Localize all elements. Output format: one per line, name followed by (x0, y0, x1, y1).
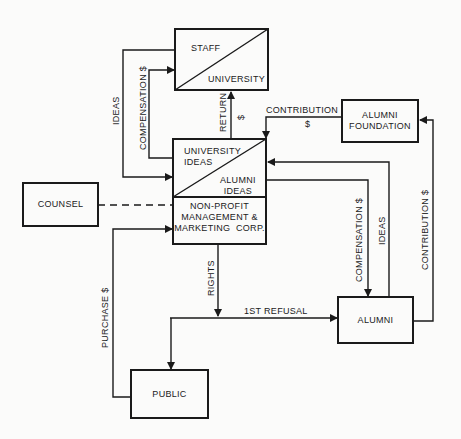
purchase-label: PURCHASE $ (100, 287, 110, 348)
university-ideas-line1: UNIVERSITY (184, 146, 241, 157)
public-label: PUBLIC (152, 389, 186, 400)
first-refusal-label: 1ST REFUSAL (244, 306, 308, 317)
return-label: RETURN (218, 93, 228, 132)
university-ideas-line2: IDEAS (184, 157, 241, 168)
edge-compensation-left (149, 70, 174, 158)
contribution-top-dollar-label: $ (305, 119, 310, 130)
corp-line2: MANAGEMENT & (181, 212, 257, 223)
university-label: UNIVERSITY (208, 74, 265, 85)
edge-ideas-right (268, 162, 389, 297)
ideas-left-label: IDEAS (111, 96, 121, 125)
alumni-ideas-label: ALUMNI IDEAS (220, 175, 256, 197)
corp-line3: MARKETING CORP. (174, 223, 265, 234)
alumni-label: ALUMNI (358, 315, 394, 326)
rights-label: RIGHTS (206, 260, 216, 296)
alumni-foundation-box: ALUMNI FOUNDATION (341, 99, 419, 143)
public-box: PUBLIC (130, 369, 209, 419)
contribution-right-label: CONTRIBUTION $ (420, 190, 430, 270)
corp-label: NON-PROFIT MANAGEMENT & MARKETING CORP. (173, 201, 266, 234)
compensation-left-label: COMPENSATION $ (138, 66, 148, 150)
return-dollar-label: $ (236, 115, 246, 120)
counsel-label: COUNSEL (38, 199, 84, 210)
foundation-line2: FOUNDATION (349, 121, 411, 132)
ideas-right-label: IDEAS (377, 216, 387, 245)
foundation-line1: ALUMNI (362, 110, 398, 121)
alumni-box: ALUMNI (337, 296, 414, 344)
counsel-box: COUNSEL (22, 182, 99, 227)
edge-compensation-right (266, 180, 368, 296)
compensation-right-label: COMPENSATION $ (354, 198, 364, 282)
edge-contribution-top (266, 117, 342, 138)
alumni-ideas-line2: IDEAS (220, 186, 256, 197)
contribution-top-label: CONTRIBUTION (266, 105, 338, 116)
alumni-ideas-line1: ALUMNI (220, 175, 256, 186)
corp-line1: NON-PROFIT (190, 201, 249, 212)
university-ideas-label: UNIVERSITY IDEAS (184, 146, 241, 168)
staff-label: STAFF (191, 43, 220, 54)
